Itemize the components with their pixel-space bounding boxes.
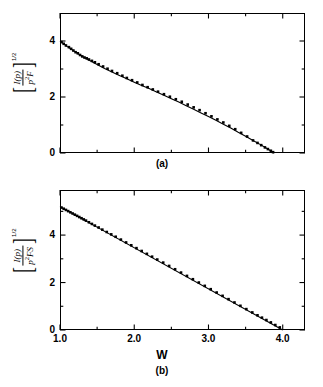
data-point bbox=[192, 106, 195, 109]
data-point bbox=[135, 247, 138, 250]
data-point bbox=[251, 311, 254, 314]
data-point bbox=[136, 81, 139, 84]
data-point bbox=[209, 288, 212, 291]
data-point bbox=[256, 142, 259, 145]
data-point bbox=[85, 57, 88, 60]
data-point bbox=[157, 90, 160, 93]
data-point bbox=[101, 228, 104, 231]
data-point bbox=[94, 224, 97, 227]
data-point bbox=[121, 74, 124, 77]
figure-container: [I(p)p2F]1/2 0 2 4 (a) [I(p)p2FS]1/2 0 2 bbox=[0, 0, 323, 387]
data-point bbox=[221, 295, 224, 298]
data-point bbox=[152, 88, 155, 91]
data-point bbox=[125, 241, 128, 244]
data-point bbox=[116, 72, 119, 75]
data-point bbox=[234, 128, 237, 131]
data-point bbox=[270, 321, 273, 324]
data-point bbox=[102, 65, 105, 68]
data-point bbox=[265, 319, 268, 322]
data-point bbox=[215, 291, 218, 294]
data-point bbox=[186, 103, 189, 106]
x-tick-label-b-0: 1.0 bbox=[45, 333, 75, 344]
data-point bbox=[62, 43, 65, 46]
data-point bbox=[67, 210, 70, 213]
data-point bbox=[274, 324, 277, 327]
data-point bbox=[228, 125, 231, 128]
data-point bbox=[180, 100, 183, 103]
data-point bbox=[83, 56, 86, 59]
data-point bbox=[82, 218, 85, 221]
data-point bbox=[233, 301, 236, 304]
data-point bbox=[175, 98, 178, 101]
y-tick-label-b-1: 2 bbox=[39, 277, 55, 288]
data-point bbox=[156, 258, 159, 261]
data-point bbox=[198, 109, 201, 112]
data-point bbox=[192, 278, 195, 281]
data-point bbox=[203, 285, 206, 288]
data-point bbox=[252, 139, 255, 142]
data-point bbox=[111, 70, 114, 73]
data-point bbox=[80, 217, 83, 220]
data-point bbox=[130, 244, 133, 247]
data-point bbox=[69, 211, 72, 214]
data-point bbox=[261, 316, 264, 319]
data-point bbox=[91, 223, 94, 226]
data-point bbox=[278, 326, 281, 329]
data-point bbox=[146, 86, 149, 89]
data-point bbox=[216, 118, 219, 121]
data-point bbox=[71, 212, 74, 215]
data-point bbox=[141, 84, 144, 87]
data-point bbox=[267, 148, 270, 151]
data-point bbox=[65, 209, 68, 212]
tick-marks-panel-a bbox=[60, 13, 305, 153]
data-point bbox=[88, 58, 91, 61]
data-point bbox=[60, 41, 63, 44]
data-point bbox=[85, 219, 88, 222]
data-point bbox=[62, 207, 65, 210]
data-point bbox=[163, 93, 166, 96]
data-point bbox=[162, 261, 165, 264]
data-point bbox=[76, 215, 79, 218]
data-point bbox=[146, 253, 149, 256]
data-point bbox=[131, 79, 134, 82]
x-tick-label-b-1: 2.0 bbox=[119, 333, 149, 344]
data-point bbox=[94, 61, 97, 64]
data-point bbox=[114, 235, 117, 238]
data-point bbox=[97, 226, 100, 229]
y-tick-label-b-2: 4 bbox=[39, 229, 55, 240]
data-point bbox=[88, 221, 91, 224]
data-point bbox=[204, 112, 207, 115]
data-point bbox=[140, 250, 143, 253]
data-point bbox=[272, 151, 275, 154]
tick-marks-panel-b bbox=[60, 190, 305, 330]
data-point bbox=[198, 281, 201, 284]
data-point bbox=[81, 55, 84, 58]
data-point bbox=[110, 233, 113, 236]
data-point bbox=[256, 314, 259, 317]
data-point bbox=[74, 213, 77, 216]
data-point bbox=[246, 135, 249, 138]
panel-caption-a: (a) bbox=[142, 158, 182, 169]
data-point bbox=[74, 51, 77, 54]
data-point bbox=[168, 265, 171, 268]
data-point bbox=[260, 144, 263, 147]
data-point bbox=[70, 48, 73, 51]
data-point bbox=[240, 132, 243, 135]
panel-caption-b: (b) bbox=[142, 365, 182, 376]
data-point bbox=[72, 49, 75, 52]
data-point bbox=[239, 305, 242, 308]
data-point bbox=[210, 115, 213, 118]
panel-b: [I(p)p2FS]1/2 0 2 4 1.0 2.0 3.0 4.0 W (b… bbox=[0, 176, 323, 387]
fit-line-panel-b bbox=[60, 207, 283, 330]
data-point bbox=[106, 67, 109, 70]
data-point bbox=[65, 44, 68, 47]
data-point bbox=[151, 255, 154, 258]
data-point bbox=[77, 52, 80, 55]
y-tick-label-a-2: 4 bbox=[39, 35, 55, 46]
y-tick-label-a-1: 2 bbox=[39, 91, 55, 102]
panel-a: [I(p)p2F]1/2 0 2 4 (a) bbox=[0, 0, 323, 176]
x-tick-label-b-3: 4.0 bbox=[268, 333, 298, 344]
data-point bbox=[60, 206, 63, 209]
data-point bbox=[227, 298, 230, 301]
x-tick-label-b-2: 3.0 bbox=[193, 333, 223, 344]
